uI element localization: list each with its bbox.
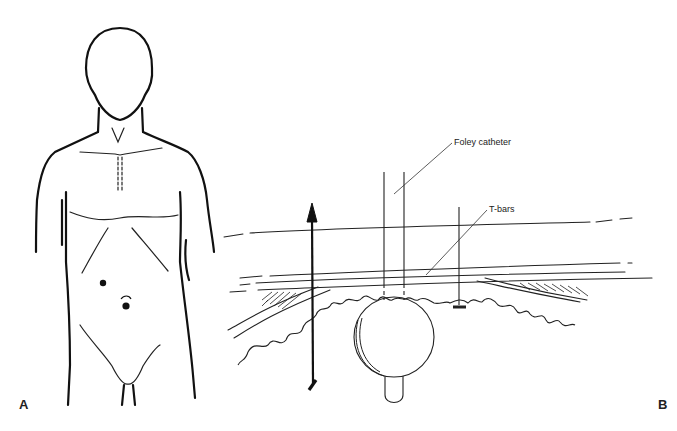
t-bars-label: T-bars <box>489 204 515 214</box>
panel-b-abdominal-wall <box>224 218 652 338</box>
port-site-dot <box>100 280 106 286</box>
foley-catheter-label: Foley catheter <box>454 137 511 147</box>
foley-catheter <box>354 172 434 403</box>
panel-a-body-details <box>70 128 178 384</box>
port-site-dot <box>122 302 129 309</box>
panel-a-body-outline <box>36 28 214 405</box>
leader-lines <box>394 143 487 275</box>
tbars-leader-line <box>426 210 487 275</box>
figure-canvas <box>0 0 677 431</box>
port-sites <box>100 280 131 310</box>
stomach-mucosa <box>238 296 575 365</box>
foley-leader-line <box>394 143 452 194</box>
t-bar <box>453 207 466 307</box>
catheter-tip <box>385 376 403 403</box>
panel-label-b: B <box>658 397 667 412</box>
arrow-up-icon <box>307 203 317 222</box>
panel-label-a: A <box>19 397 28 412</box>
muscle-hatching <box>262 283 588 309</box>
